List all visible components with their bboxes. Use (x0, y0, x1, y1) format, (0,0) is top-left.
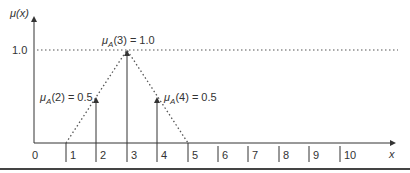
y-axis-label: μ(x) (9, 7, 29, 19)
svg-text:0: 0 (32, 149, 38, 161)
svg-text:5: 5 (192, 149, 198, 161)
x-tick-marks (66, 143, 340, 162)
svg-text:2: 2 (100, 149, 106, 161)
svg-text:8: 8 (283, 149, 289, 161)
one-level-label: 1.0 (12, 44, 27, 56)
annotation-mu-a-4: μA(4) = 0.5 (163, 91, 217, 106)
svg-text:9: 9 (313, 149, 319, 161)
svg-text:4: 4 (161, 149, 167, 161)
svg-text:1: 1 (70, 149, 76, 161)
svg-text:3: 3 (131, 149, 137, 161)
svg-text:6: 6 (222, 149, 228, 161)
x-axis-label: x (388, 148, 395, 160)
bottom-rule (0, 168, 410, 170)
x-tick-labels: 0 1 2 3 4 5 6 7 8 9 10 (32, 149, 356, 161)
svg-text:10: 10 (344, 149, 356, 161)
svg-text:7: 7 (252, 149, 258, 161)
annotation-mu-a-2: μA(2) = 0.5 (39, 91, 93, 106)
annotation-mu-a-3: μA(3) = 1.0 (101, 34, 155, 49)
membership-function-diagram: μ(x) x 1.0 μA(3) = 1.0 μA(2) = 0.5 μA(4)… (0, 0, 410, 173)
